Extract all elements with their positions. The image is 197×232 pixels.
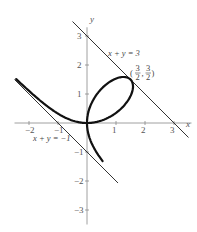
y-tick-label: 3: [77, 31, 82, 41]
x-tick-label: 2: [141, 125, 146, 135]
y-tick-label: −3: [74, 205, 84, 215]
y-axis-label: y: [89, 14, 94, 24]
svg-text:): ): [152, 68, 155, 78]
y-tick-label: −1: [74, 147, 84, 157]
folium-lower-right-arm: [87, 123, 103, 161]
svg-text:2: 2: [146, 72, 150, 82]
axes: [15, 27, 192, 224]
y-tick-label: 2: [77, 60, 82, 70]
y-tick-label: 1: [77, 89, 82, 99]
x-tick-label: 3: [170, 125, 175, 135]
svg-text:(: (: [130, 68, 133, 78]
x-tick-label: 1: [112, 125, 117, 135]
folium-loop: [87, 77, 133, 123]
svg-text:2: 2: [136, 72, 140, 82]
folium-chart: −2−1123−3−2−1123 x y x + y = 3 x + y = −…: [0, 0, 197, 232]
point-annotation: ( 3 2 , 3 2 ): [130, 63, 155, 82]
y-tick-label: −2: [74, 176, 84, 186]
line2-annotation: x + y = −1: [32, 133, 71, 143]
line1-annotation: x + y = 3: [107, 48, 140, 58]
svg-text:,: ,: [142, 68, 144, 78]
x-axis-label: x: [185, 119, 190, 129]
